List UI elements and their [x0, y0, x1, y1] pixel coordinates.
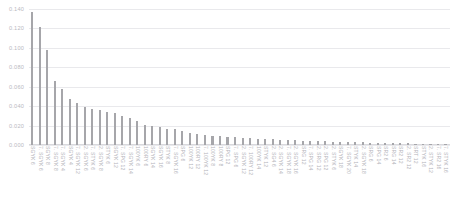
bar[interactable]	[226, 137, 228, 145]
bar-cell[interactable]	[157, 9, 165, 145]
bar-cell[interactable]	[405, 9, 413, 145]
bar[interactable]	[407, 143, 409, 145]
bar[interactable]	[219, 136, 221, 145]
bar-cell[interactable]	[104, 9, 112, 145]
bar[interactable]	[151, 126, 153, 145]
bar[interactable]	[91, 109, 93, 145]
bar[interactable]	[422, 144, 424, 145]
bar-cell[interactable]	[74, 9, 82, 145]
bar[interactable]	[384, 143, 386, 145]
bar[interactable]	[429, 144, 431, 145]
bar[interactable]	[257, 139, 259, 145]
bar-cell[interactable]	[330, 9, 338, 145]
bar[interactable]	[69, 99, 71, 145]
bar-cell[interactable]	[37, 9, 45, 145]
bar-cell[interactable]	[240, 9, 248, 145]
bar[interactable]	[46, 50, 48, 145]
bar[interactable]	[181, 131, 183, 145]
bar[interactable]	[302, 141, 304, 145]
bar-cell[interactable]	[202, 9, 210, 145]
bar[interactable]	[129, 118, 131, 145]
bar-cell[interactable]	[315, 9, 323, 145]
bar[interactable]	[54, 81, 56, 145]
bar-cell[interactable]	[209, 9, 217, 145]
bar-cell[interactable]	[172, 9, 180, 145]
bar[interactable]	[369, 143, 371, 145]
bar[interactable]	[159, 127, 161, 145]
bar[interactable]	[437, 144, 439, 145]
bar[interactable]	[174, 129, 176, 145]
bar-cell[interactable]	[52, 9, 60, 145]
bar[interactable]	[166, 129, 168, 146]
bar[interactable]	[414, 144, 416, 145]
bar[interactable]	[189, 133, 191, 145]
bar[interactable]	[204, 135, 206, 145]
bar-cell[interactable]	[224, 9, 232, 145]
bar-cell[interactable]	[164, 9, 172, 145]
bar-cell[interactable]	[375, 9, 383, 145]
bar-cell[interactable]	[412, 9, 420, 145]
bar-cell[interactable]	[435, 9, 443, 145]
bar[interactable]	[99, 110, 101, 145]
bar-cell[interactable]	[127, 9, 135, 145]
bar[interactable]	[354, 142, 356, 145]
bar[interactable]	[249, 138, 251, 145]
bar-cell[interactable]	[427, 9, 435, 145]
bar-cell[interactable]	[345, 9, 353, 145]
bar-cell[interactable]	[367, 9, 375, 145]
bar-cell[interactable]	[142, 9, 150, 145]
bar[interactable]	[377, 143, 379, 145]
bar[interactable]	[279, 140, 281, 145]
bar[interactable]	[347, 142, 349, 145]
bar-cell[interactable]	[292, 9, 300, 145]
bar-cell[interactable]	[119, 9, 127, 145]
bar[interactable]	[234, 137, 236, 145]
bar-cell[interactable]	[149, 9, 157, 145]
bar-cell[interactable]	[442, 9, 450, 145]
bar-cell[interactable]	[232, 9, 240, 145]
bar[interactable]	[294, 140, 296, 145]
bar-cell[interactable]	[262, 9, 270, 145]
bar-cell[interactable]	[134, 9, 142, 145]
bar-cell[interactable]	[390, 9, 398, 145]
bar-cell[interactable]	[270, 9, 278, 145]
bar[interactable]	[31, 12, 33, 145]
bar-cell[interactable]	[337, 9, 345, 145]
bar[interactable]	[84, 107, 86, 145]
bar-cell[interactable]	[67, 9, 75, 145]
bar[interactable]	[392, 143, 394, 145]
bar-cell[interactable]	[187, 9, 195, 145]
bar-cell[interactable]	[397, 9, 405, 145]
bar[interactable]	[242, 138, 244, 145]
bar-cell[interactable]	[255, 9, 263, 145]
bar-cell[interactable]	[277, 9, 285, 145]
bar[interactable]	[106, 112, 108, 145]
bar[interactable]	[211, 136, 213, 145]
bar-cell[interactable]	[420, 9, 428, 145]
bar-cell[interactable]	[29, 9, 37, 145]
bar-cell[interactable]	[322, 9, 330, 145]
bar[interactable]	[264, 139, 266, 145]
bar[interactable]	[61, 89, 63, 145]
bar-cell[interactable]	[112, 9, 120, 145]
bar-cell[interactable]	[217, 9, 225, 145]
bar[interactable]	[114, 113, 116, 145]
bar-cell[interactable]	[194, 9, 202, 145]
bar-cell[interactable]	[285, 9, 293, 145]
bar[interactable]	[76, 103, 78, 145]
bar[interactable]	[317, 141, 319, 145]
bar-cell[interactable]	[382, 9, 390, 145]
bar-cell[interactable]	[59, 9, 67, 145]
bar[interactable]	[287, 140, 289, 145]
bar[interactable]	[196, 134, 198, 145]
bar[interactable]	[332, 142, 334, 145]
bar-cell[interactable]	[82, 9, 90, 145]
bar[interactable]	[444, 144, 446, 145]
bar-cell[interactable]	[300, 9, 308, 145]
bar-cell[interactable]	[179, 9, 187, 145]
bar-cell[interactable]	[89, 9, 97, 145]
bar[interactable]	[399, 143, 401, 145]
bar-cell[interactable]	[247, 9, 255, 145]
bar[interactable]	[272, 139, 274, 145]
bar-cell[interactable]	[360, 9, 368, 145]
